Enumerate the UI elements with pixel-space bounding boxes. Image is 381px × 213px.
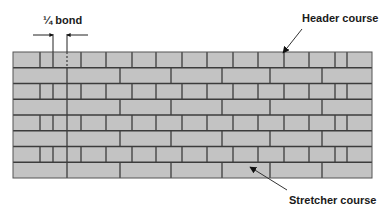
brick-wall bbox=[0, 0, 381, 213]
wall-courses bbox=[13, 52, 372, 178]
stretcher-course-label: Stretcher course bbox=[289, 195, 376, 206]
header-course-label: Header course bbox=[302, 13, 378, 24]
quarter-bond-label: ¼ bond bbox=[43, 15, 82, 26]
header-course-arrow-icon bbox=[283, 29, 302, 53]
brick-bond-diagram: ¼ bond Header course Stretcher course bbox=[0, 0, 381, 213]
